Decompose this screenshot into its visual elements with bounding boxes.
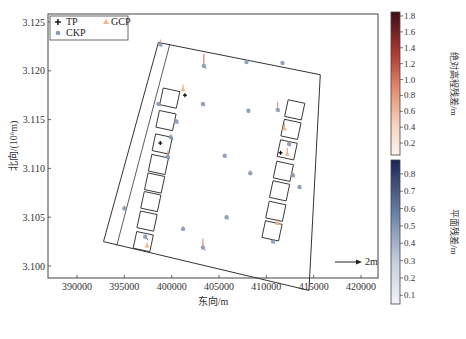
colorbar-tick-label: 1.4 — [404, 43, 416, 53]
colorbar-tick-label: 0.2 — [404, 273, 415, 283]
x-tick-label: 415000 — [299, 281, 329, 292]
x-tick-label: 390000 — [62, 281, 92, 292]
y-tick-label: 3.120 — [23, 65, 46, 76]
y-axis: 3.1003.1053.1103.1153.1203.125 — [23, 17, 52, 272]
colorbar-tick-label: 1.0 — [404, 75, 416, 85]
y-tick-label: 3.100 — [23, 261, 46, 272]
y-axis-title: 北向/(10⁶m) — [7, 121, 20, 172]
colorbar-tick-label: 1.6 — [404, 27, 416, 37]
colorbar-tick-label: 0.1 — [404, 290, 415, 300]
ckp-point — [222, 154, 226, 158]
colorbar-tick-label: 0.4 — [404, 122, 416, 132]
legend-tp-label: TP — [66, 16, 78, 27]
legend-gcp-label: GCP — [111, 16, 131, 27]
colorbar-tick-label: 0.6 — [404, 204, 416, 214]
colorbar-tick-label: 0.5 — [404, 221, 416, 231]
x-tick-label: 410000 — [251, 281, 281, 292]
legend-ckp-marker-icon — [56, 31, 61, 36]
colorbar-planar-residual: 0.10.20.30.40.50.60.70.8 平面残差/m — [391, 160, 460, 304]
colorbar-tick-label: 0.3 — [404, 256, 416, 266]
colorbar-tick-label: 0.8 — [404, 90, 416, 100]
ckp-point — [271, 239, 275, 243]
x-tick-label: 420000 — [346, 281, 376, 292]
colorbar-height-residual: 0.20.40.60.81.01.21.41.61.8 绝对高程残差/m — [391, 11, 460, 155]
colorbar-tick-label: 0.8 — [404, 169, 416, 179]
colorbar-tick-label: 0.2 — [404, 138, 415, 148]
x-axis-title: 东向/m — [198, 295, 229, 307]
ckp-point — [156, 102, 160, 106]
x-tick-label: 400000 — [157, 281, 187, 292]
y-tick-label: 3.105 — [23, 212, 46, 223]
scale-label: 2m — [365, 256, 378, 267]
colorbar-planar-label: 平面残差/m — [449, 209, 460, 255]
legend: TP GCP CKP — [50, 16, 131, 40]
colorbar-tick-label: 1.8 — [404, 11, 416, 21]
y-tick-label: 3.125 — [23, 17, 46, 28]
colorbar-tick-label: 0.4 — [404, 238, 416, 248]
colorbar-tick-label: 1.2 — [404, 59, 415, 69]
x-tick-label: 395000 — [109, 281, 139, 292]
legend-ckp-label: CKP — [66, 27, 86, 38]
residual-scatter-chart: 3900003950004000004050004100004150004200… — [0, 0, 466, 339]
y-tick-label: 3.115 — [23, 114, 45, 125]
ckp-point — [246, 109, 250, 113]
colorbar-height-label: 绝对高程残差/m — [449, 52, 460, 116]
y-tick-label: 3.110 — [23, 163, 45, 174]
colorbar-tick-label: 0.7 — [404, 186, 416, 196]
ckp-point — [280, 61, 284, 65]
x-tick-label: 405000 — [204, 281, 234, 292]
colorbar-tick-label: 0.6 — [404, 106, 416, 116]
